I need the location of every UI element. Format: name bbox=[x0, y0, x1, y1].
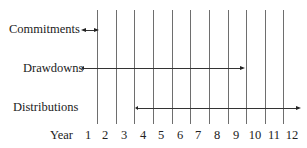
gridline-11 bbox=[283, 10, 284, 124]
tick-9: 9 bbox=[227, 128, 245, 142]
tick-1: 1 bbox=[79, 128, 97, 142]
gridline-2 bbox=[116, 10, 117, 124]
tick-4: 4 bbox=[134, 128, 152, 142]
tick-12: 12 bbox=[283, 128, 301, 142]
arrowhead-right-icon bbox=[296, 106, 301, 110]
axis-label-year: Year bbox=[50, 128, 73, 142]
gridline-6 bbox=[190, 10, 191, 124]
arrowhead-right-icon bbox=[94, 28, 99, 32]
distributions-arrow bbox=[138, 108, 298, 109]
gridline-7 bbox=[209, 10, 210, 124]
tick-2: 2 bbox=[96, 128, 114, 142]
gridline-4 bbox=[153, 10, 154, 124]
gridline-9 bbox=[246, 10, 247, 124]
drawdowns-arrow bbox=[84, 68, 242, 69]
tick-8: 8 bbox=[208, 128, 226, 142]
row-label-drawdowns: Drawdowns bbox=[23, 61, 83, 75]
arrowhead-right-icon bbox=[240, 66, 245, 70]
tick-7: 7 bbox=[189, 128, 207, 142]
tick-3: 3 bbox=[115, 128, 133, 142]
tick-11: 11 bbox=[265, 128, 283, 142]
tick-10: 10 bbox=[246, 128, 264, 142]
commitments-arrow bbox=[84, 30, 96, 31]
tick-5: 5 bbox=[152, 128, 170, 142]
gridline-8 bbox=[228, 10, 229, 124]
row-label-distributions: Distributions bbox=[13, 100, 78, 114]
arrowhead-left-icon bbox=[81, 28, 86, 32]
tick-6: 6 bbox=[171, 128, 189, 142]
gridline-10 bbox=[265, 10, 266, 124]
arrow-dot-left-icon bbox=[81, 66, 84, 70]
gridline-5 bbox=[172, 10, 173, 124]
arrow-dot-left-icon bbox=[135, 106, 138, 110]
row-label-commitments: Commitments bbox=[9, 22, 80, 36]
